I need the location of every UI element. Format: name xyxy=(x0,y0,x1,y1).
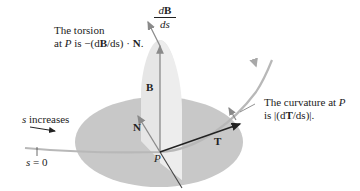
point-p-label: P xyxy=(154,152,161,164)
t-label: T xyxy=(214,135,221,147)
torsion-annotation-line1: The torsion xyxy=(54,24,104,36)
db-ds-label: dB ds xyxy=(154,5,176,30)
curvature-annotation-line2: is |(dT/ds)|. xyxy=(264,109,314,121)
torsion-annotation-line2: at P is −(dB/ds) · N. xyxy=(54,37,143,49)
curvature-t: T xyxy=(285,109,292,121)
curvature-text-2b: /ds)|. xyxy=(293,109,314,121)
b-label: B xyxy=(146,81,153,93)
n-label: N xyxy=(133,121,141,133)
torsion-b: B xyxy=(100,37,107,49)
torsion-text-2a: at xyxy=(54,37,65,49)
torsion-text-1: The torsion xyxy=(54,24,104,36)
torsion-n: N xyxy=(133,37,141,49)
s-var-zero: s xyxy=(26,156,30,168)
s-zero-text: = 0 xyxy=(33,156,47,168)
s-zero-label: s = 0 xyxy=(26,156,48,168)
s-increases-arrow xyxy=(30,127,55,131)
curvature-text-2a: is |(d xyxy=(264,109,285,121)
curvature-annotation-line1: The curvature at P xyxy=(264,96,346,108)
s-var: s xyxy=(22,113,26,125)
db-ds-denominator: ds xyxy=(154,18,176,30)
torsion-text-2c: /ds) · xyxy=(107,37,133,49)
s-increases-label: s increases xyxy=(22,113,69,125)
s-increases-text: increases xyxy=(29,113,69,125)
db-ds-numerator: dB xyxy=(154,5,176,18)
torsion-text-2b: is −(d xyxy=(71,37,99,49)
torsion-end: . xyxy=(141,37,144,49)
curvature-text-1: The curvature at xyxy=(264,96,339,108)
curvature-p: P xyxy=(339,96,346,108)
frenet-frame-figure: The torsion at P is −(dB/ds) · N. dB ds … xyxy=(0,0,360,191)
